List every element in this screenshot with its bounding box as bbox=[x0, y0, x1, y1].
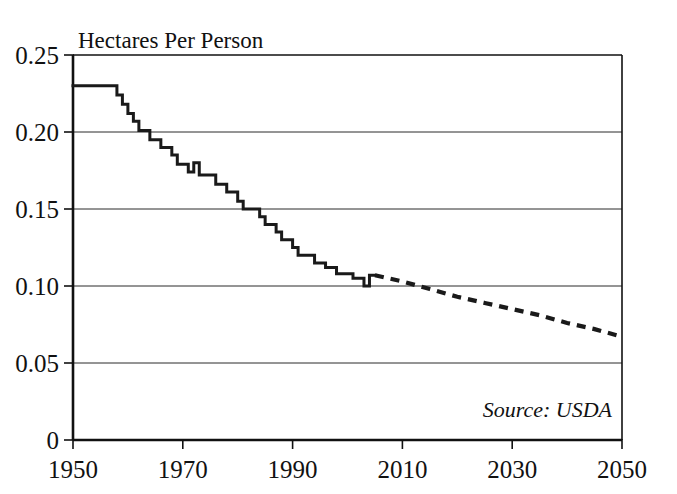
y-tick-label: 0.05 bbox=[15, 350, 59, 377]
y-tick-label: 0.20 bbox=[15, 119, 59, 146]
x-axis-tick-labels: 195019701990201020302050 bbox=[48, 456, 647, 483]
x-tick-label: 1970 bbox=[158, 456, 208, 483]
plot-area-background bbox=[73, 55, 622, 440]
y-tick-label: 0 bbox=[47, 427, 60, 454]
x-tick-label: 2010 bbox=[377, 456, 427, 483]
y-tick-label: 0.15 bbox=[15, 196, 59, 223]
source-annotation: Source: USDA bbox=[483, 397, 613, 422]
x-tick-label: 2030 bbox=[487, 456, 537, 483]
y-tick-label: 0.25 bbox=[15, 42, 59, 69]
x-tick-label: 2050 bbox=[597, 456, 647, 483]
y-tick-label: 0.10 bbox=[15, 273, 59, 300]
chart-figure: 00.050.100.150.200.25 195019701990201020… bbox=[0, 0, 677, 494]
chart-title: Hectares Per Person bbox=[78, 28, 264, 53]
grain-area-per-person-line-chart: 00.050.100.150.200.25 195019701990201020… bbox=[0, 0, 677, 494]
y-axis-tick-labels: 00.050.100.150.200.25 bbox=[15, 42, 59, 454]
x-tick-label: 1990 bbox=[268, 456, 318, 483]
x-tick-label: 1950 bbox=[48, 456, 98, 483]
